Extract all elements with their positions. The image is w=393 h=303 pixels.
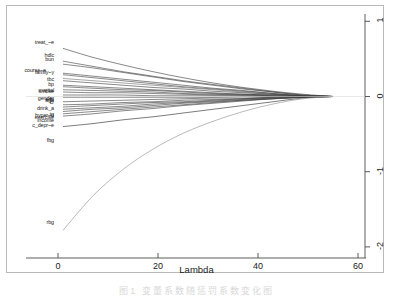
coefficient-path bbox=[63, 48, 333, 96]
variable-name-label: fbg bbox=[14, 138, 54, 143]
plot-area bbox=[0, 0, 393, 303]
lasso-coefficient-path-figure: treat_~ehdlcbuncourse~efamily~ytbcbpmari… bbox=[0, 0, 393, 303]
variable-name-label: drink_a bbox=[14, 106, 54, 111]
x-axis-ticks bbox=[58, 253, 358, 258]
y-tick-label: -1 bbox=[375, 163, 385, 179]
coefficient-path bbox=[63, 97, 333, 112]
coefficient-curves bbox=[63, 48, 333, 230]
variable-name-label: c_depr~e bbox=[14, 123, 54, 128]
variable-name-label: treat_~e bbox=[14, 40, 54, 45]
coefficient-path bbox=[63, 97, 333, 231]
variable-name-label: family~y bbox=[14, 70, 54, 75]
x-axis-title: Lambda bbox=[0, 264, 393, 275]
figure-caption: 图1 变量系数随惩罚系数变化图 bbox=[0, 284, 393, 297]
y-tick-label: 0 bbox=[375, 88, 385, 104]
y-tick-label: 1 bbox=[375, 12, 385, 28]
variable-name-label: bun bbox=[14, 57, 54, 62]
variable-name-label: rbg bbox=[14, 220, 54, 225]
variable-name-label: smoke bbox=[14, 89, 54, 94]
y-axis-ticks bbox=[365, 21, 370, 247]
y-tick-label: -2 bbox=[375, 238, 385, 254]
